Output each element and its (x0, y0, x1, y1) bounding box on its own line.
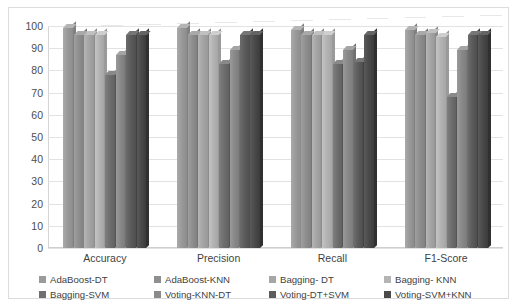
bar-slot (230, 26, 240, 248)
bar-face (198, 35, 208, 248)
bar-slot (405, 26, 415, 248)
bar[interactable] (230, 50, 240, 248)
bar-face (405, 30, 415, 248)
bar-slot (105, 26, 115, 248)
y-axis-tick-label: 20 (9, 198, 43, 209)
bar[interactable] (333, 64, 343, 248)
bar-slot (63, 26, 73, 248)
y-axis-tick-label: 10 (9, 221, 43, 232)
bar-face (415, 35, 425, 248)
bar-side-face (260, 28, 263, 248)
legend-label: Bagging- DT (280, 274, 334, 285)
bar[interactable] (177, 28, 187, 248)
bar[interactable] (74, 35, 84, 248)
legend-item[interactable]: Bagging- KNN (384, 272, 499, 287)
bar-slot (436, 26, 446, 248)
bar[interactable] (63, 28, 73, 248)
legend-item[interactable]: AdaBoost-DT (39, 272, 154, 287)
y-axis-tick-label: 30 (9, 176, 43, 187)
legend-item[interactable]: AdaBoost-KNN (154, 272, 269, 287)
bar-group (48, 26, 162, 248)
legend-label: Bagging-SVM (50, 289, 109, 300)
bar[interactable] (95, 35, 105, 248)
bar[interactable] (105, 75, 115, 248)
bar-side-face (146, 28, 149, 248)
bar[interactable] (219, 64, 229, 248)
bar[interactable] (322, 35, 332, 248)
legend-swatch (269, 276, 276, 283)
bar[interactable] (126, 35, 136, 248)
bar[interactable] (405, 30, 415, 248)
y-axis-tick-label: 0 (9, 243, 43, 254)
bar[interactable] (188, 35, 198, 248)
y-axis-tick-label: 50 (9, 132, 43, 143)
bar[interactable] (312, 35, 322, 248)
bar-slot (426, 26, 436, 248)
bar-slot (250, 26, 260, 248)
legend-label: Voting-KNN-DT (165, 289, 231, 300)
bar[interactable] (364, 35, 374, 248)
y-axis-tick-label: 40 (9, 154, 43, 165)
bar[interactable] (116, 55, 126, 248)
bar-face (105, 75, 115, 248)
bar-slot (343, 26, 353, 248)
bar-face (116, 55, 126, 248)
bar[interactable] (415, 35, 425, 248)
bar-slot (198, 26, 208, 248)
bar[interactable] (478, 35, 488, 248)
legend-item[interactable]: Voting-DT+SVM (269, 287, 384, 302)
plot-area (48, 26, 503, 248)
bar[interactable] (301, 35, 311, 248)
bar[interactable] (457, 50, 467, 248)
bar-face (322, 35, 332, 248)
bar[interactable] (137, 35, 147, 248)
bar-slot (457, 26, 467, 248)
bar-slot (240, 26, 250, 248)
bar[interactable] (84, 35, 94, 248)
bar[interactable] (426, 33, 436, 248)
legend-swatch (269, 291, 276, 298)
legend-swatch (384, 291, 391, 298)
bar[interactable] (468, 35, 478, 248)
bar-slot (333, 26, 343, 248)
legend-item[interactable]: Bagging- DT (269, 272, 384, 287)
bar-face (240, 35, 250, 248)
bar[interactable] (291, 30, 301, 248)
bar[interactable] (250, 35, 260, 248)
legend-swatch (384, 276, 391, 283)
chart-legend: AdaBoost-DTAdaBoost-KNNBagging- DTBaggin… (39, 272, 499, 302)
legend-item[interactable]: Bagging-SVM (39, 287, 154, 302)
bar[interactable] (354, 62, 364, 248)
bar-slot (301, 26, 311, 248)
bar-slot (74, 26, 84, 248)
bar-face (74, 35, 84, 248)
legend-item[interactable]: Voting-SVM+KNN (384, 287, 499, 302)
legend-label: Voting-SVM+KNN (395, 289, 472, 300)
bar-face (468, 35, 478, 248)
chart-container: 1009080706050403020100 AccuracyPrecision… (8, 7, 509, 299)
legend-item[interactable]: Voting-KNN-DT (154, 287, 269, 302)
bar-face (209, 35, 219, 248)
bar[interactable] (209, 35, 219, 248)
bar-face (177, 28, 187, 248)
bar-face (84, 35, 94, 248)
bar[interactable] (436, 37, 446, 248)
bar-slot (312, 26, 322, 248)
legend-swatch (154, 291, 161, 298)
bar[interactable] (343, 50, 353, 248)
bar-slot (478, 26, 488, 248)
y-axis-tick-label: 80 (9, 65, 43, 76)
bar[interactable] (198, 35, 208, 248)
bar-face (333, 64, 343, 248)
bar-side-face (374, 28, 377, 248)
bar-slot (468, 26, 478, 248)
y-axis-tick-label: 90 (9, 43, 43, 54)
bar-face (436, 37, 446, 248)
bar[interactable] (447, 97, 457, 248)
bar-slot (188, 26, 198, 248)
legend-label: AdaBoost-DT (50, 274, 108, 285)
bar[interactable] (240, 35, 250, 248)
bar-slot (415, 26, 425, 248)
bar-slot (177, 26, 187, 248)
legend-label: Voting-DT+SVM (280, 289, 349, 300)
